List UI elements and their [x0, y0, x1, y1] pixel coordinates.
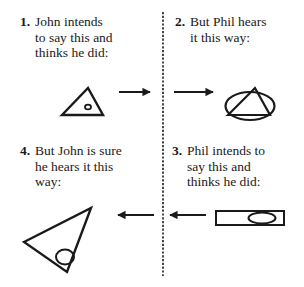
- panel-2-shape-ellipse-triangle: [226, 88, 275, 120]
- diagram-artwork: [0, 0, 304, 287]
- panel-4-shape-triangle-circle: [24, 208, 91, 272]
- panel-3-shape-rectangle-ellipse: [216, 211, 284, 225]
- panel-1-shape-triangle: [62, 88, 103, 115]
